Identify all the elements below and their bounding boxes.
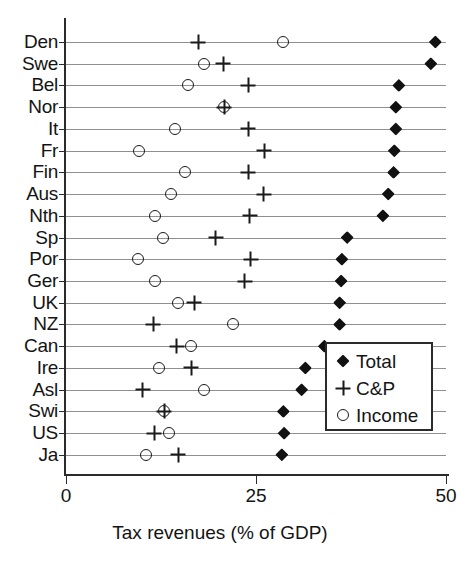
marker-diamond-us: [278, 427, 291, 440]
gridline: [66, 107, 446, 108]
marker-diamond-nth: [376, 209, 389, 222]
marker-plus-us: [147, 426, 162, 441]
marker-circle-it: [169, 123, 181, 135]
marker-circle-den: [277, 36, 289, 48]
marker-diamond-bel: [392, 79, 405, 92]
category-label-nz: NZ: [0, 314, 58, 333]
y-axis-tick: [59, 303, 66, 304]
category-label-nor: Nor: [0, 97, 58, 116]
category-label-ire: Ire: [0, 358, 58, 377]
y-axis-tick: [59, 346, 66, 347]
category-label-sp: Sp: [0, 228, 58, 247]
marker-plus-fin: [241, 165, 256, 180]
marker-diamond-uk: [333, 296, 346, 309]
marker-diamond-swi: [277, 405, 290, 418]
diamond-icon: [333, 351, 353, 371]
y-axis-tick: [59, 411, 66, 412]
category-label-den: Den: [0, 32, 58, 51]
marker-plus-ja: [171, 447, 186, 462]
marker-plus-den: [191, 35, 206, 50]
y-axis-tick: [59, 216, 66, 217]
x-axis-tick-label: 50: [435, 486, 456, 505]
category-label-ger: Ger: [0, 271, 58, 290]
marker-circle-fin: [179, 166, 191, 178]
marker-diamond-ire: [299, 361, 312, 374]
marker-diamond-den: [429, 36, 442, 49]
marker-circle-uk: [172, 297, 184, 309]
y-axis-tick: [59, 390, 66, 391]
marker-diamond-it: [389, 122, 402, 135]
y-axis-tick: [59, 64, 66, 65]
y-axis-tick: [59, 324, 66, 325]
y-axis-tick: [59, 129, 66, 130]
gridline: [66, 455, 446, 456]
gridline: [66, 324, 446, 325]
gridline: [66, 238, 446, 239]
category-label-ja: Ja: [0, 445, 58, 464]
x-axis-tick: [66, 476, 67, 484]
marker-circle-ja: [140, 449, 152, 461]
y-axis-tick: [59, 455, 66, 456]
y-axis-tick: [59, 151, 66, 152]
category-label-it: It: [0, 119, 58, 138]
marker-plus-nz: [146, 317, 161, 332]
marker-circle-asl: [198, 384, 210, 396]
category-label-aus: Aus: [0, 184, 58, 203]
marker-diamond-swe: [424, 57, 437, 70]
legend-item-income: Income: [333, 402, 418, 428]
marker-diamond-sp: [341, 231, 354, 244]
marker-plus-ire: [184, 360, 199, 375]
x-axis-tick: [256, 476, 257, 484]
marker-circle-nth: [149, 210, 161, 222]
marker-plus-uk: [187, 295, 202, 310]
marker-plus-ger: [237, 274, 252, 289]
marker-plus-can: [169, 339, 184, 354]
marker-plus-sp: [208, 230, 223, 245]
chart-legend: Total C&P Income: [325, 342, 433, 431]
marker-circle-ger: [149, 275, 161, 287]
legend-item-cp: C&P: [333, 375, 395, 401]
category-label-uk: UK: [0, 293, 58, 312]
category-label-can: Can: [0, 336, 58, 355]
marker-plus-it: [241, 121, 256, 136]
category-label-por: Por: [0, 249, 58, 268]
marker-diamond-nz: [333, 318, 346, 331]
marker-circle-aus: [165, 188, 177, 200]
category-label-swe: Swe: [0, 54, 58, 73]
marker-plus-bel: [241, 78, 256, 93]
marker-circle-can: [185, 340, 197, 352]
y-axis-tick: [59, 172, 66, 173]
marker-plus-aus: [256, 187, 271, 202]
marker-circle-swe: [198, 58, 210, 70]
marker-diamond-nor: [389, 101, 402, 114]
marker-circle-ire: [153, 362, 165, 374]
gridline: [66, 64, 446, 65]
y-axis-tick: [59, 194, 66, 195]
legend-label-income: Income: [356, 406, 418, 425]
marker-circle-sp: [157, 232, 169, 244]
marker-circle-fr: [133, 145, 145, 157]
category-label-nth: Nth: [0, 206, 58, 225]
y-axis-tick: [59, 85, 66, 86]
marker-circle-nz: [227, 318, 239, 330]
marker-diamond-fr: [388, 144, 401, 157]
x-axis-tick: [446, 476, 447, 484]
gridline: [66, 303, 446, 304]
category-label-asl: Asl: [0, 380, 58, 399]
x-axis-ticks: 02550: [66, 476, 446, 516]
category-label-fr: Fr: [0, 141, 58, 160]
gridline: [66, 129, 446, 130]
y-axis-tick: [59, 368, 66, 369]
marker-diamond-asl: [295, 383, 308, 396]
marker-circle-swi: [158, 405, 170, 417]
y-axis-tick: [59, 259, 66, 260]
marker-circle-por: [132, 253, 144, 265]
y-axis-tick: [59, 107, 66, 108]
marker-diamond-ja: [275, 448, 288, 461]
marker-plus-asl: [135, 382, 150, 397]
plus-icon: [333, 378, 353, 398]
marker-plus-por: [243, 252, 258, 267]
category-label-bel: Bel: [0, 75, 58, 94]
y-axis-tick: [59, 42, 66, 43]
gridline: [66, 433, 446, 434]
